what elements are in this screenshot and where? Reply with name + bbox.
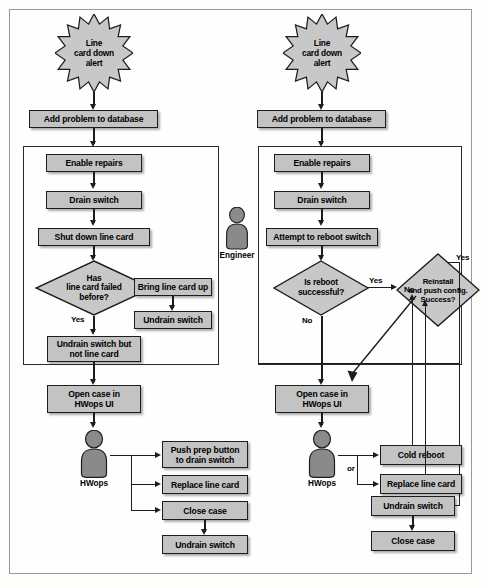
left-label-yes: Yes [71, 315, 84, 324]
right-start-line3: alert [314, 58, 331, 68]
right-open-case-line2: HWops UI [302, 399, 341, 409]
right-enable-repairs-box: Enable repairs [274, 154, 370, 172]
left-undrain-switch-box: Undrain switch [134, 311, 212, 329]
left-decision-line1: Has [87, 273, 102, 283]
left-arrowhead-replace [155, 481, 161, 487]
right-decision1-line2: successful? [298, 287, 344, 297]
left-shut-down-box: Shut down line card [38, 228, 150, 246]
left-arrowhead-push [155, 452, 161, 458]
right-start-line1: Line [314, 38, 330, 48]
right-label-d1-no: No [302, 316, 312, 325]
left-start-line3: alert [86, 58, 103, 68]
left-enable-repairs-box: Enable repairs [46, 154, 142, 172]
left-repair-group [23, 146, 219, 365]
right-conn-d2-yes-top [447, 262, 460, 263]
left-undrain-not-card-line1: Undrain switch but [57, 339, 132, 349]
left-start-line2: card down [74, 48, 114, 58]
right-actor-stem [338, 455, 358, 456]
engineer-label: Engineer [219, 251, 254, 260]
right-conn-d1-no [321, 316, 322, 382]
right-label-d2-yes: Yes [456, 253, 469, 262]
left-hwops-label: HWops [80, 479, 108, 488]
right-conn-d1-yes [368, 287, 393, 288]
left-replace-line-card-box: Replace line card [162, 475, 248, 494]
left-add-problem-box: Add problem to database [29, 110, 158, 128]
left-branch-push [131, 455, 157, 456]
left-branch-close [131, 510, 157, 511]
left-close-case-box: Close case [162, 501, 248, 520]
right-attempt-reboot-box: Attempt to reboot switch [266, 228, 378, 246]
engineer-actor: Engineer [222, 207, 252, 250]
left-undrain-not-line-card-box: Undrain switch but not line card [47, 336, 141, 362]
left-arrowhead-enable [90, 141, 96, 147]
right-arrowhead-cold [373, 452, 379, 458]
right-replace-line-card-box: Replace line card [380, 474, 462, 494]
left-push-prep-line2: to drain switch [176, 455, 234, 465]
right-cold-reboot-box: Cold reboot [380, 445, 462, 465]
left-start-line1: Line [86, 38, 102, 48]
right-arrowhead-enable [318, 141, 324, 147]
right-start-line2: card down [302, 48, 342, 58]
left-actor-stem [110, 455, 132, 456]
left-drain-switch-box: Drain switch [46, 191, 142, 209]
right-arrowhead-actor [318, 422, 324, 428]
right-hwops-label: HWops [308, 479, 336, 488]
left-decision-line2: line card failed [66, 282, 121, 292]
left-open-case-line1: Open case in [68, 389, 120, 399]
left-branch-replace [131, 484, 157, 485]
left-hwops-actor: HWops [76, 430, 112, 478]
right-arrowhead-drain [318, 183, 324, 189]
right-arrowhead-reboot [318, 220, 324, 226]
right-undrain-switch-main-box: Undrain switch [371, 496, 455, 516]
right-conn-d2-no-diagonal [330, 290, 420, 386]
right-actor-bus [357, 455, 358, 485]
right-open-case-line1: Open case in [296, 389, 348, 399]
left-open-case-line2: HWops UI [74, 399, 113, 409]
left-open-case-box: Open case in HWops UI [47, 385, 141, 413]
right-close-case-box: Close case [371, 531, 455, 551]
left-final-undrain-box: Undrain switch [162, 535, 248, 554]
left-actor-bus [131, 455, 132, 511]
right-add-problem-box: Add problem to database [257, 110, 386, 128]
right-start-alert: Line card down alert [283, 14, 361, 92]
left-start-alert: Line card down alert [55, 14, 133, 92]
left-undrain-not-card-line2: not line card [69, 349, 118, 359]
right-open-case-box: Open case in HWops UI [275, 385, 369, 413]
left-push-prep-line1: Push prep button [171, 445, 240, 455]
right-decision2-line3: Success? [421, 295, 456, 304]
right-hwops-actor: HWops [304, 430, 340, 478]
right-group-rail-bottom [258, 363, 460, 364]
left-arrowhead-yes [90, 329, 96, 335]
right-drain-switch-box: Drain switch [274, 191, 370, 209]
right-feedback-cold-up [412, 300, 413, 445]
right-decision1-line1: Is reboot [304, 277, 338, 287]
right-label-or: or [347, 464, 355, 473]
right-decision2-line2: and push config. [408, 286, 467, 295]
left-arrowhead-actor [90, 422, 96, 428]
right-arrowhead-replace [373, 481, 379, 487]
left-arrowhead-close [155, 507, 161, 513]
left-decision-line3: before? [79, 292, 108, 302]
right-feedback-replace-up [425, 306, 426, 474]
left-push-prep-box: Push prep button to drain switch [162, 441, 248, 468]
left-arrowhead-drain [90, 183, 96, 189]
right-decision2-line1: Reinstall [423, 277, 454, 286]
right-label-d1-yes: Yes [369, 276, 382, 285]
left-arrowhead-shut [90, 220, 96, 226]
diagram-canvas: Line card down alert Add problem to data… [0, 0, 482, 588]
bring-line-card-up-box: Bring line card up [134, 278, 212, 296]
